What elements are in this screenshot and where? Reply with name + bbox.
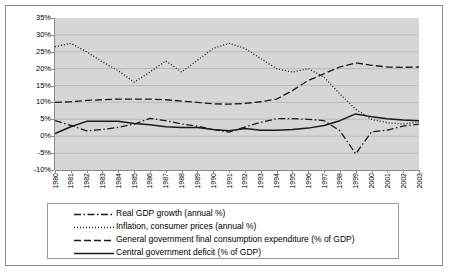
x-axis-tick-mark bbox=[245, 170, 246, 173]
x-axis-tick-label: 2002 bbox=[400, 173, 407, 189]
legend-line-swatch bbox=[74, 207, 114, 220]
x-axis-tick-mark bbox=[134, 170, 135, 173]
legend-item-label: Real GDP growth (annual %) bbox=[116, 207, 225, 220]
legend-item: Central government deficit (% of GDP) bbox=[48, 246, 398, 259]
x-axis-tick-mark bbox=[197, 170, 198, 173]
x-axis-tick-mark bbox=[387, 170, 388, 173]
x-axis-tick-label: 1993 bbox=[257, 173, 264, 189]
legend-item-label: Central government deficit (% of GDP) bbox=[116, 246, 261, 259]
x-axis-line bbox=[55, 170, 419, 171]
x-axis-tick-mark bbox=[102, 170, 103, 173]
x-axis-tick-mark bbox=[229, 170, 230, 173]
x-axis-tick-mark bbox=[324, 170, 325, 173]
x-axis-tick-mark bbox=[118, 170, 119, 173]
chart-legend: Real GDP growth (annual %)Inflation, con… bbox=[47, 203, 399, 259]
x-axis-tick-mark bbox=[166, 170, 167, 173]
x-axis-tick-label: 1994 bbox=[273, 173, 280, 189]
legend-line-swatch bbox=[74, 233, 114, 246]
x-axis-tick-label: 1981 bbox=[67, 173, 74, 189]
x-axis-tick-label: 1985 bbox=[131, 173, 138, 189]
x-axis-tick-mark bbox=[403, 170, 404, 173]
x-axis-tick-label: 1986 bbox=[146, 173, 153, 189]
x-axis-tick-label: 1987 bbox=[162, 173, 169, 189]
series-line-3 bbox=[55, 63, 419, 104]
series-line-4 bbox=[55, 114, 419, 134]
series-line-2 bbox=[55, 43, 419, 124]
y-axis-tick-label: 30% bbox=[36, 31, 51, 39]
x-axis: 1980198119821983198419851986198719881989… bbox=[55, 170, 419, 204]
chart-frame: 35%30%25%20%15%10%5%0%-5%-10% 1980198119… bbox=[5, 5, 443, 266]
legend-item-label: Inflation, consumer prices (annual %) bbox=[116, 220, 256, 233]
legend-line-swatch bbox=[74, 246, 114, 259]
x-axis-tick-label: 1999 bbox=[352, 173, 359, 189]
x-axis-tick-mark bbox=[182, 170, 183, 173]
x-axis-tick-mark bbox=[308, 170, 309, 173]
plot-area bbox=[55, 18, 419, 170]
y-axis-tick-label: 5% bbox=[40, 115, 51, 123]
x-axis-tick-label: 1991 bbox=[226, 173, 233, 189]
line-chart: 35%30%25%20%15%10%5%0%-5%-10% 1980198119… bbox=[6, 6, 442, 265]
y-axis-tick-label: 10% bbox=[36, 98, 51, 106]
x-axis-tick-mark bbox=[55, 170, 56, 173]
x-axis-tick-label: 1997 bbox=[321, 173, 328, 189]
x-axis-tick-label: 1984 bbox=[115, 173, 122, 189]
x-axis-tick-mark bbox=[71, 170, 72, 173]
y-axis-tick-mark bbox=[51, 170, 54, 171]
y-axis: 35%30%25%20%15%10%5%0%-5%-10% bbox=[6, 6, 55, 182]
x-axis-tick-mark bbox=[419, 170, 420, 173]
y-axis-tick-label: -5% bbox=[38, 149, 51, 157]
y-axis-tick-label: 25% bbox=[36, 48, 51, 56]
y-axis-tick-label: 20% bbox=[36, 65, 51, 73]
x-axis-tick-label: 1996 bbox=[305, 173, 312, 189]
x-axis-tick-mark bbox=[356, 170, 357, 173]
x-axis-tick-label: 2003 bbox=[416, 173, 423, 189]
legend-line-swatch bbox=[74, 220, 114, 233]
x-axis-tick-label: 1995 bbox=[289, 173, 296, 189]
x-axis-tick-mark bbox=[277, 170, 278, 173]
x-axis-tick-label: 2000 bbox=[368, 173, 375, 189]
x-axis-tick-label: 1980 bbox=[52, 173, 59, 189]
x-axis-tick-label: 1990 bbox=[210, 173, 217, 189]
x-axis-tick-label: 1982 bbox=[83, 173, 90, 189]
y-axis-tick-label: 35% bbox=[36, 14, 51, 22]
x-axis-tick-mark bbox=[372, 170, 373, 173]
x-axis-tick-mark bbox=[150, 170, 151, 173]
x-axis-tick-label: 1983 bbox=[99, 173, 106, 189]
plot-svg bbox=[55, 18, 419, 170]
legend-item: General government final consumption exp… bbox=[48, 233, 398, 246]
legend-item: Real GDP growth (annual %) bbox=[48, 207, 398, 220]
legend-item: Inflation, consumer prices (annual %) bbox=[48, 220, 398, 233]
x-axis-tick-mark bbox=[213, 170, 214, 173]
x-axis-tick-mark bbox=[340, 170, 341, 173]
y-axis-tick-label: 0% bbox=[40, 132, 51, 140]
x-axis-tick-label: 1992 bbox=[241, 173, 248, 189]
x-axis-tick-mark bbox=[87, 170, 88, 173]
x-axis-tick-mark bbox=[292, 170, 293, 173]
x-axis-tick-mark bbox=[261, 170, 262, 173]
y-axis-tick-label: -10% bbox=[33, 166, 51, 174]
x-axis-tick-label: 1989 bbox=[194, 173, 201, 189]
x-axis-tick-label: 2001 bbox=[384, 173, 391, 189]
x-axis-tick-label: 1988 bbox=[178, 173, 185, 189]
legend-item-label: General government final consumption exp… bbox=[116, 233, 355, 246]
y-axis-tick-label: 15% bbox=[36, 82, 51, 90]
x-axis-tick-label: 1998 bbox=[336, 173, 343, 189]
